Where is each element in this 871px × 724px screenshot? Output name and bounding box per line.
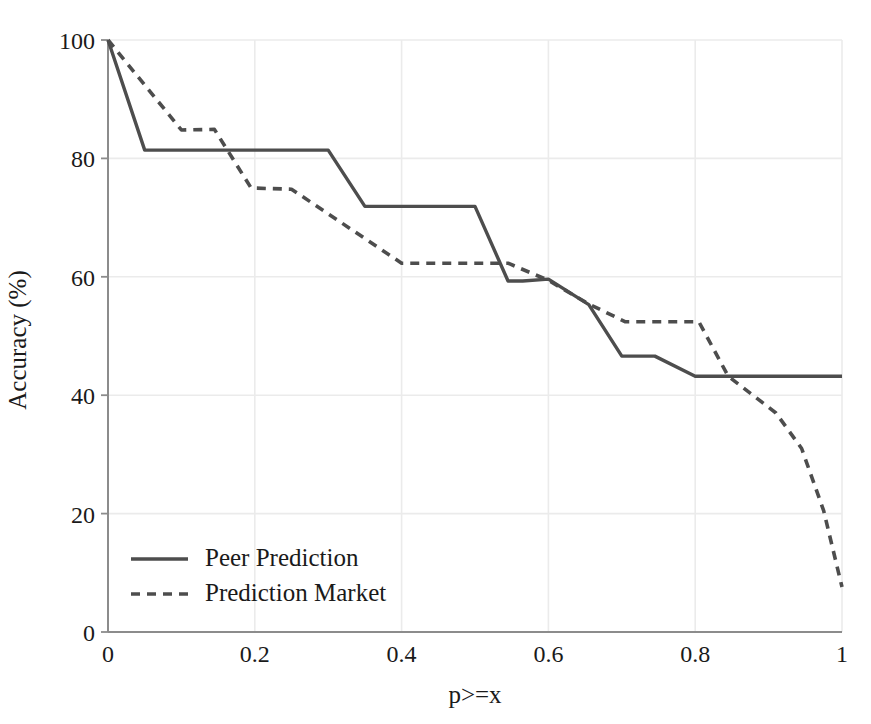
x-tick-label: 0.4 [387,641,417,667]
x-tick-label: 1 [836,641,848,667]
y-tick-label: 20 [71,502,95,528]
y-tick-label: 100 [59,28,95,54]
y-axis-tick-labels: 020406080100 [59,28,95,646]
legend-label: Peer Prediction [205,544,359,571]
y-tick-label: 60 [71,265,95,291]
y-tick-label: 80 [71,146,95,172]
y-axis-title: Accuracy (%) [4,270,32,410]
x-tick-label: 0.2 [240,641,270,667]
legend-label: Prediction Market [205,579,386,606]
x-tick-label: 0 [102,641,114,667]
x-axis-title: p>=x [448,681,502,708]
chart-figure: 020406080100 00.20.40.60.81 p>=x Accurac… [0,0,871,724]
y-tick-label: 40 [71,383,95,409]
y-axis-tick-marks [101,40,108,632]
y-tick-label: 0 [83,620,95,646]
x-tick-label: 0.8 [680,641,710,667]
line-chart: 020406080100 00.20.40.60.81 p>=x Accurac… [0,0,871,724]
x-tick-label: 0.6 [533,641,563,667]
x-axis-tick-labels: 00.20.40.60.81 [102,641,848,667]
